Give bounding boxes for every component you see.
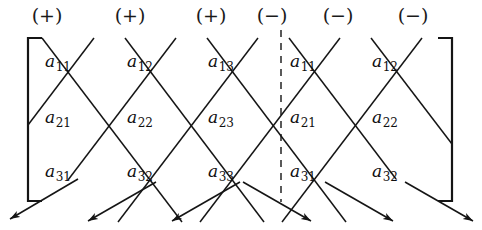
entry-subscript: 12 xyxy=(382,59,398,73)
entry-base: a xyxy=(208,107,218,127)
entry-subscript: 23 xyxy=(218,115,234,129)
entry-subscript: 32 xyxy=(137,169,153,183)
matrix-entry-32-c5: a32 xyxy=(372,161,398,184)
sarrus-diagram-figure: (+)(+)(+)(−)(−)(−) a11a12a13a11a12a21a22… xyxy=(0,0,482,230)
entry-subscript: 21 xyxy=(55,115,71,129)
entry-base: a xyxy=(290,107,300,127)
entry-subscript: 33 xyxy=(218,169,234,183)
sign-label-3: (+) xyxy=(196,4,227,26)
matrix-entry-22-c2: a22 xyxy=(127,107,153,130)
sign-label-4: (−) xyxy=(257,4,288,26)
entry-base: a xyxy=(208,161,218,181)
matrix-entry-11-c1: a11 xyxy=(45,51,71,74)
entry-subscript: 22 xyxy=(137,115,153,129)
matrix-entry-32-c2: a32 xyxy=(127,161,153,184)
matrix-entry-12-c2: a12 xyxy=(127,51,153,74)
arrow-down-right xyxy=(405,182,473,221)
entry-subscript: 22 xyxy=(382,115,398,129)
sign-label-1: (+) xyxy=(32,4,63,26)
entry-base: a xyxy=(290,161,300,181)
sign-label-5: (−) xyxy=(323,4,354,26)
sign-label-2: (+) xyxy=(115,4,146,26)
entry-subscript: 32 xyxy=(382,169,398,183)
entry-subscript: 12 xyxy=(137,59,153,73)
diagram-canvas xyxy=(0,0,482,230)
diagonal-down-left xyxy=(68,38,176,180)
entry-base: a xyxy=(45,51,55,71)
direction-arrows xyxy=(10,179,473,221)
matrix-entry-21-c4: a21 xyxy=(290,107,316,130)
right-bracket-shape xyxy=(438,38,452,201)
entry-base: a xyxy=(372,161,382,181)
entry-subscript: 31 xyxy=(55,169,71,183)
entry-base: a xyxy=(372,107,382,127)
matrix-entry-11-c4: a11 xyxy=(290,51,316,74)
sign-label-6: (−) xyxy=(398,4,429,26)
matrix-entry-13-c3: a13 xyxy=(208,51,234,74)
entry-base: a xyxy=(208,51,218,71)
matrix-entry-33-c3: a33 xyxy=(208,161,234,184)
right-matrix-bracket xyxy=(438,38,452,201)
arrow-down-right xyxy=(243,182,311,221)
matrix-entry-21-c1: a21 xyxy=(45,107,71,130)
left-matrix-bracket xyxy=(28,38,42,201)
entry-base: a xyxy=(290,51,300,71)
arrow-down-left xyxy=(88,182,156,221)
arrow-down-left xyxy=(10,179,78,219)
entry-base: a xyxy=(127,51,137,71)
left-bracket-shape xyxy=(28,38,42,201)
matrix-entry-23-c3: a23 xyxy=(208,107,234,130)
matrix-entry-31-c4: a31 xyxy=(290,161,316,184)
arrow-down-right xyxy=(325,182,393,221)
matrix-entry-12-c5: a12 xyxy=(372,51,398,74)
entry-base: a xyxy=(45,107,55,127)
entry-subscript: 13 xyxy=(218,59,234,73)
matrix-entry-22-c5: a22 xyxy=(372,107,398,130)
matrix-entry-31-c1: a31 xyxy=(45,161,71,184)
entry-base: a xyxy=(127,161,137,181)
entry-subscript: 11 xyxy=(55,59,71,73)
entry-subscript: 21 xyxy=(300,115,316,129)
entry-subscript: 11 xyxy=(300,59,316,73)
entry-base: a xyxy=(127,107,137,127)
entry-base: a xyxy=(372,51,382,71)
entry-subscript: 31 xyxy=(300,169,316,183)
entry-base: a xyxy=(45,161,55,181)
